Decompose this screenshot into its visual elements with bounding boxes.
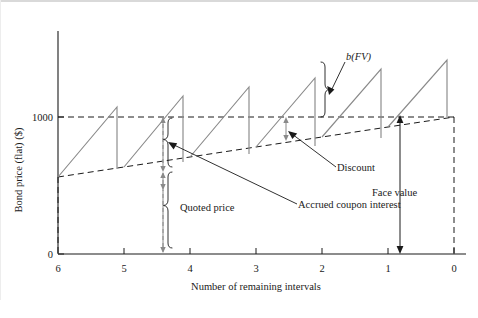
quoted-price-brace — [164, 172, 173, 248]
annotation-quoted-price: Quoted price — [180, 202, 235, 213]
accrued-measure-arrowhead-bottom — [160, 166, 165, 172]
chart-canvas: 1000 0 Bond price (flat) ($) 6 5 4 3 2 1… — [0, 0, 478, 318]
bfv-leader-arrowhead — [327, 86, 334, 95]
accrued-leader-line — [172, 144, 297, 204]
sawtooth-segment-4-to-3 — [190, 87, 249, 157]
sawtooth-segment-5-to-4 — [124, 96, 183, 167]
sawtooth-segment-2-to-1 — [322, 69, 381, 138]
quoted-price-measure-group — [160, 117, 165, 253]
x-tick-label-2: 2 — [319, 263, 324, 274]
quoted-measure-arrowhead-base — [160, 247, 165, 253]
y-axis-title: Bond price (flat) ($) — [13, 127, 25, 212]
discount-measure-arrowhead-bottom — [283, 135, 288, 141]
x-tick-label-6: 6 — [55, 263, 60, 274]
annotation-face-value: Face value — [372, 187, 418, 198]
annotation-accrued-coupon-interest: Accrued coupon interest — [298, 199, 401, 210]
x-tick-label-0: 0 — [451, 263, 456, 274]
bfv-brace-group — [321, 62, 345, 117]
quoted-brace-group — [164, 172, 173, 248]
face-value-arrowhead-bottom — [397, 246, 404, 254]
x-tick-label-5: 5 — [121, 263, 126, 274]
y-tick-label-0: 0 — [48, 249, 53, 260]
x-tick-label-4: 4 — [187, 263, 193, 274]
annotation-b-fv: b(FV) — [346, 51, 372, 63]
discount-leader-arrowhead — [288, 131, 297, 139]
bond-price-figure: 1000 0 Bond price (flat) ($) 6 5 4 3 2 1… — [0, 0, 478, 318]
discount-leader-line — [292, 134, 336, 167]
quoted-measure-arrowhead-up — [160, 172, 165, 178]
y-tick-label-1000: 1000 — [32, 112, 53, 123]
accrued-leader-group — [168, 142, 297, 204]
quoted-measure-arrowhead-down — [160, 184, 165, 190]
x-axis-title: Number of remaining intervals — [191, 281, 321, 292]
bfv-leader-line — [331, 62, 345, 91]
flat-price-sawtooth — [58, 60, 447, 177]
sawtooth-segment-6-to-5 — [58, 107, 117, 177]
face-value-measure-group — [397, 115, 404, 254]
discount-measure-arrowhead-top — [283, 117, 288, 123]
annotation-discount: Discount — [337, 162, 375, 173]
x-tick-label-3: 3 — [253, 263, 258, 274]
x-tick-label-1: 1 — [385, 263, 390, 274]
axes-group — [58, 31, 466, 254]
